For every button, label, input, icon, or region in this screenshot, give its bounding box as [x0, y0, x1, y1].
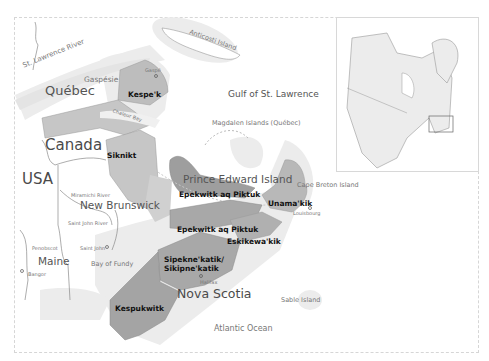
label-nova-scotia: Nova Scotia	[177, 288, 252, 301]
label-gaspe: Gaspé	[145, 68, 161, 73]
label-halifax: Halifax	[200, 280, 217, 285]
label-bangor: Bangor	[28, 272, 46, 277]
label-pei: Prince Edward Island	[183, 174, 292, 185]
label-gulf: Gulf of St. Lawrence	[228, 90, 319, 99]
label-canada: Canada	[45, 138, 102, 153]
inset-locator-map	[336, 17, 479, 172]
label-penobscot: Penobscot	[32, 246, 58, 251]
label-bay-of-fundy: Bay of Fundy	[91, 261, 133, 268]
district-label-eskikewakik: Eskikewa'kik	[227, 238, 281, 246]
district-label-epekwitk-pei: Epekwitk aq Piktuk	[179, 191, 260, 199]
label-new-brunswick: New Brunswick	[80, 200, 160, 211]
district-label-unamakik: Unama'kik	[268, 200, 312, 208]
label-miramichi-river: Miramichi River	[71, 193, 110, 198]
label-louisbourg: Louisbourg	[293, 211, 320, 216]
label-magdalen: Magdalen Islands (Québec)	[212, 120, 301, 127]
district-label-sipeknekatik: Sipekne'katik/ Sikipne'katik	[164, 256, 224, 273]
label-sable: Sable Island	[281, 297, 320, 304]
label-usa: USA	[22, 172, 53, 187]
label-cape-breton: Cape Breton Island	[297, 182, 359, 189]
label-atlantic: Atlantic Ocean	[214, 325, 273, 333]
district-label-siknikt: Siknikt	[107, 152, 136, 160]
north-america-outline	[337, 18, 478, 171]
district-label-kespek: Kespe'k	[128, 91, 161, 99]
label-maine: Maine	[38, 256, 70, 267]
label-gaspesie: Gaspésie	[84, 76, 118, 84]
district-label-epekwitk-ns: Epekwitk aq Piktuk	[177, 226, 258, 234]
label-saint-john: Saint John	[80, 246, 105, 251]
label-saint-john-river: Saint John River	[68, 221, 108, 226]
label-quebec: Québec	[45, 84, 95, 97]
district-label-kespukwitk: Kespukwitk	[115, 305, 164, 313]
